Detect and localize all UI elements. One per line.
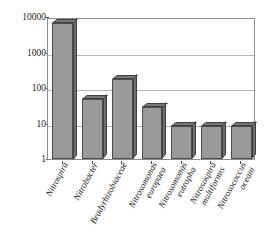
y-tick-label: 1: [12, 155, 46, 164]
bar: [142, 19, 163, 159]
bar-side-face: [162, 101, 166, 159]
bar-side-face: [252, 121, 256, 159]
bar: [82, 19, 103, 159]
bar-side-face: [133, 74, 137, 159]
bar-front-face: [231, 126, 252, 159]
bar: [171, 19, 192, 159]
bar-side-face: [192, 121, 196, 159]
bar-side-face: [103, 94, 107, 159]
y-tick: 100: [12, 84, 46, 94]
bar-front-face: [201, 126, 222, 159]
plot-area: [47, 18, 255, 160]
figure-bar-chart: 读取的序列数 100001000100101 NitrospiraNitroba…: [0, 0, 268, 249]
y-tick-label: 10000: [12, 13, 46, 22]
bar-front-face: [171, 126, 192, 159]
y-tick-label: 1000: [12, 49, 46, 58]
bar-front-face: [142, 107, 163, 159]
bar-front-face: [112, 79, 133, 159]
bar: [231, 19, 252, 159]
y-tick-label: 10: [12, 120, 46, 129]
y-tick-label: 100: [12, 84, 46, 93]
bar-side-face: [73, 17, 77, 159]
y-tick: 10000: [12, 13, 46, 23]
bar: [112, 19, 133, 159]
bar-front-face: [82, 99, 103, 159]
x-axis-labels: NitrospiraNitrobacterBradyrhizobiaceaeNi…: [47, 161, 255, 249]
bar-front-face: [52, 23, 73, 160]
bar-series: [48, 19, 254, 159]
y-tick: 1000: [12, 49, 46, 59]
bar: [201, 19, 222, 159]
bar: [52, 19, 73, 159]
y-tick: 10: [12, 120, 46, 130]
y-tick: 1: [12, 155, 46, 165]
bar-side-face: [222, 121, 226, 159]
